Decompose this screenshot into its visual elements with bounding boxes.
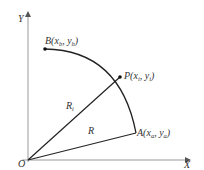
point-p bbox=[118, 75, 122, 79]
x-axis-label: X bbox=[183, 159, 191, 170]
point-a-label: A(xa, ya) bbox=[136, 127, 171, 139]
radius-r bbox=[28, 133, 136, 160]
arc-interpolation-diagram: Y X O B(xb, yb) P(xi, yi) A(xa, ya) Ri R bbox=[0, 0, 204, 170]
point-b bbox=[43, 47, 47, 51]
point-p-label: P(xi, yi) bbox=[123, 70, 155, 82]
radius-r-label: R bbox=[87, 125, 94, 136]
point-b-label: B(xb, yb) bbox=[45, 35, 79, 47]
arc-b-to-a bbox=[45, 49, 136, 133]
origin-label: O bbox=[18, 158, 25, 169]
radius-ri bbox=[28, 77, 120, 160]
y-axis-label: Y bbox=[18, 13, 25, 24]
radius-ri-label: Ri bbox=[65, 100, 74, 112]
